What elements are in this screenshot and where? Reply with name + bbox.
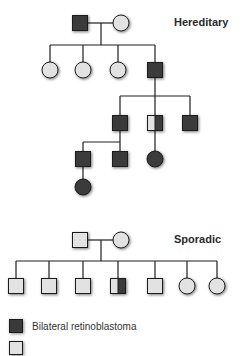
female-circle-icon xyxy=(113,232,129,248)
legend-item-bilateral: Bilateral retinoblastoma xyxy=(9,318,137,334)
female-circle-icon xyxy=(147,151,163,167)
female-circle-icon xyxy=(42,62,58,78)
female-circle-icon xyxy=(209,278,225,294)
affected-swatch-icon xyxy=(9,319,23,333)
female-circle-icon xyxy=(75,62,91,78)
sporadic-label: Sporadic xyxy=(174,233,221,245)
female-circle-icon xyxy=(110,62,126,78)
male-square-icon xyxy=(111,279,126,294)
male-square-icon xyxy=(183,116,198,131)
male-square-icon xyxy=(76,279,91,294)
unaffected-swatch-icon xyxy=(9,341,23,355)
hereditary-label: Hereditary xyxy=(174,16,228,28)
male-square-icon xyxy=(73,16,88,31)
legend-item-unaffected xyxy=(9,340,32,356)
pedigree-individuals xyxy=(9,15,226,294)
male-square-icon xyxy=(9,279,24,294)
male-square-icon xyxy=(42,279,57,294)
female-circle-icon xyxy=(113,15,129,31)
female-circle-icon xyxy=(179,278,195,294)
female-circle-icon xyxy=(75,179,91,195)
male-square-icon xyxy=(76,152,91,167)
male-square-icon xyxy=(148,279,163,294)
male-square-icon xyxy=(113,152,128,167)
male-square-icon xyxy=(73,233,88,248)
male-square-icon xyxy=(113,116,128,131)
male-square-icon xyxy=(148,63,163,78)
legend-label: Bilateral retinoblastoma xyxy=(32,321,137,332)
male-square-icon xyxy=(148,116,163,131)
